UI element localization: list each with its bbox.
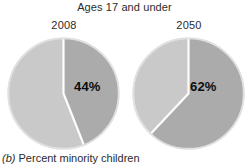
pie-chart-2050 bbox=[132, 37, 245, 150]
figure-percent-minority-children: Ages 17 and under 2008 2050 44% 62% (b) … bbox=[0, 0, 249, 167]
year-label-2050: 2050 bbox=[159, 19, 219, 32]
figure-caption: (b) Percent minority children bbox=[2, 151, 140, 165]
pie-chart-2050-svg bbox=[132, 37, 245, 150]
figure-caption-tag: (b) bbox=[2, 152, 15, 164]
pie-value-label-2050: 62% bbox=[190, 79, 217, 94]
pie-value-label-2008: 44% bbox=[74, 79, 101, 94]
pie-chart-2008 bbox=[7, 37, 120, 150]
pie-chart-2008-svg bbox=[7, 37, 120, 150]
figure-caption-text: Percent minority children bbox=[15, 152, 139, 164]
chart-title: Ages 17 and under bbox=[0, 1, 249, 14]
year-label-2008: 2008 bbox=[34, 19, 94, 32]
